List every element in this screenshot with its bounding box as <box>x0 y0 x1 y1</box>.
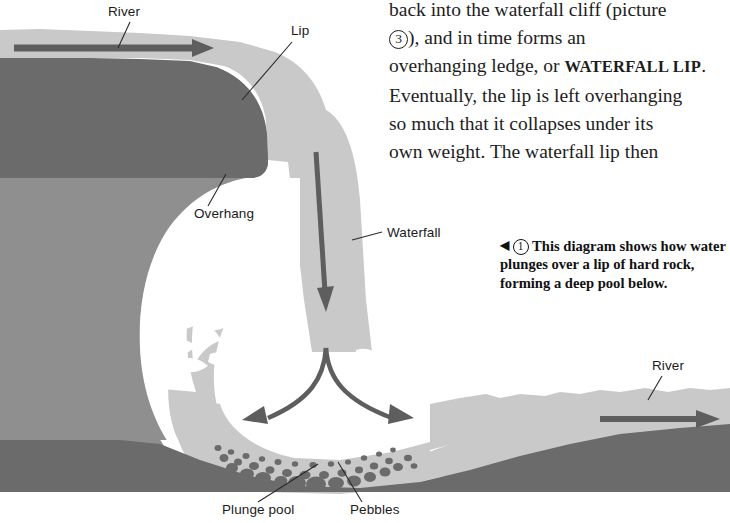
body-line-1: back into the waterfall cliff (picture <box>389 0 666 20</box>
figure-number-marker: 1 <box>513 239 529 255</box>
label-pebbles: Pebbles <box>350 502 400 517</box>
body-text-block: back into the waterfall cliff (picture 3… <box>389 0 730 166</box>
body-line-5: so much that it collapses under its <box>389 113 653 134</box>
body-line-2: ), and in time forms an <box>408 27 586 48</box>
waterfall-lip-term: WATERFALL LIP <box>564 57 701 76</box>
body-line-3-after: . <box>701 55 706 76</box>
label-lip: Lip <box>291 23 309 38</box>
body-line-4: Eventually, the lip is left overhanging <box>389 85 682 106</box>
figure-caption: ◀ 1 This diagram shows how water plunges… <box>500 236 728 292</box>
label-overhang: Overhang <box>194 206 254 221</box>
picture-3-marker: 3 <box>389 30 408 49</box>
caption-left-triangle-icon: ◀ <box>500 238 509 252</box>
body-line-3-before: overhanging ledge, or <box>389 55 564 76</box>
label-river-upstream: River <box>108 4 140 19</box>
label-plunge-pool: Plunge pool <box>222 502 294 517</box>
caption-line-1: This diagram shows how <box>532 238 687 254</box>
body-line-6: own weight. The waterfall lip then <box>389 141 658 162</box>
outflow-right-arrowhead <box>388 404 414 424</box>
label-waterfall: Waterfall <box>387 225 441 240</box>
label-river-downstream: River <box>652 358 684 373</box>
waterfall-diagram-page: River Lip Overhang Waterfall River Plung… <box>0 0 730 523</box>
